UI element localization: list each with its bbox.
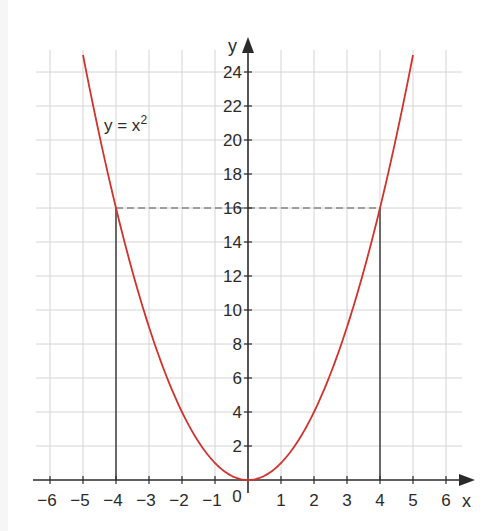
y-tick-label: 18 (223, 165, 242, 184)
x-tick-label: 6 (441, 491, 450, 510)
y-axis-label: y (228, 36, 237, 56)
y-tick-label: 12 (223, 267, 242, 286)
x-tick-label: −1 (202, 491, 221, 510)
grid (36, 50, 462, 480)
y-tick-label: 10 (223, 301, 242, 320)
function-label-base: y = x (104, 116, 141, 135)
y-tick-label: 22 (223, 97, 242, 116)
x-axis-label: x (462, 491, 471, 511)
y-tick-label: 20 (223, 131, 242, 150)
parabola-chart: −6−5−4−3−2−1012345624681012141618202224x… (0, 0, 497, 531)
x-tick-label: 2 (309, 491, 318, 510)
function-label: y = x2 (104, 113, 147, 135)
y-tick-label: 24 (223, 63, 242, 82)
x-axis-arrow-icon (459, 474, 475, 486)
function-label-exponent: 2 (140, 113, 147, 127)
x-tick-label: −2 (169, 491, 188, 510)
y-tick-label: 6 (233, 369, 242, 388)
y-tick-label: 16 (223, 199, 242, 218)
y-tick-label: 2 (233, 437, 242, 456)
y-tick-label: 14 (223, 233, 242, 252)
x-tick-label: 1 (276, 491, 285, 510)
x-tick-label: 3 (342, 491, 351, 510)
x-tick-label: −5 (70, 491, 89, 510)
x-tick-label: 4 (375, 491, 384, 510)
y-tick-label: 8 (233, 335, 242, 354)
y-tick-label: 4 (233, 403, 242, 422)
y-axis-arrow-icon (242, 37, 254, 53)
x-tick-label: −4 (103, 491, 122, 510)
x-tick-label: 5 (408, 491, 417, 510)
x-tick-label: −6 (37, 491, 56, 510)
x-tick-label: −3 (136, 491, 155, 510)
x-tick-label: 0 (232, 487, 241, 506)
labels: −6−5−4−3−2−1012345624681012141618202224x… (37, 36, 471, 511)
axes (33, 37, 475, 493)
